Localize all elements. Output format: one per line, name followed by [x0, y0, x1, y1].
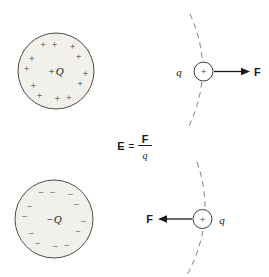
- force-label: F: [146, 213, 153, 225]
- test-charge-label: q: [176, 66, 182, 78]
- equation-F: F: [142, 133, 149, 145]
- equation-E: E: [117, 140, 124, 152]
- minus-mark: −: [22, 211, 28, 222]
- minus-mark: −: [74, 199, 80, 210]
- charge-letter: Q: [56, 65, 64, 77]
- force-arrowhead-icon: [241, 68, 250, 75]
- minus-mark: −: [81, 216, 87, 227]
- plus-mark: +: [24, 63, 30, 74]
- plus-mark: +: [37, 90, 43, 101]
- negative-charged-sphere: −−−−−−−−−−−− −Q: [15, 180, 93, 258]
- minus-sign: −: [46, 213, 52, 225]
- minus-mark: −: [50, 187, 56, 198]
- plus-mark: +: [40, 39, 46, 50]
- force-arrowhead-icon: [158, 215, 167, 222]
- bottom-test-charge-diagram: + q F: [146, 162, 225, 275]
- equation-q: q: [143, 150, 148, 161]
- plus-mark: +: [55, 93, 61, 104]
- plus-mark: +: [77, 78, 83, 89]
- test-charge-plus: +: [201, 66, 207, 77]
- minus-mark: −: [29, 228, 35, 239]
- minus-mark: −: [35, 238, 41, 249]
- negative-sphere-charge-label: −Q: [46, 213, 61, 225]
- top-test-charge-diagram: + q F: [176, 14, 261, 128]
- electric-field-figure: ++++++++++++ +Q + q F E = F q −−−−−−−−−−…: [0, 0, 269, 277]
- plus-mark: +: [83, 68, 89, 79]
- minus-mark: −: [38, 187, 44, 198]
- plus-sign: +: [48, 65, 54, 77]
- electric-field-diagram: ++++++++++++ +Q + q F E = F q −−−−−−−−−−…: [0, 0, 269, 277]
- minus-mark: −: [64, 240, 70, 251]
- charge-letter: Q: [54, 213, 62, 225]
- test-charge-label: q: [219, 214, 225, 226]
- field-equation: E = F q: [117, 133, 152, 162]
- positive-charged-sphere: ++++++++++++ +Q: [18, 33, 94, 109]
- plus-mark: +: [52, 39, 58, 50]
- plus-mark: +: [66, 92, 72, 103]
- minus-mark: −: [68, 189, 74, 200]
- test-charge-plus: +: [200, 214, 206, 225]
- force-label: F: [254, 66, 261, 78]
- minus-mark: −: [75, 226, 81, 237]
- plus-mark: +: [76, 51, 82, 62]
- plus-mark: +: [31, 80, 37, 91]
- equation-equals: =: [129, 141, 135, 152]
- minus-mark: −: [27, 201, 33, 212]
- plus-mark: +: [70, 41, 76, 52]
- plus-mark: +: [29, 53, 35, 64]
- minus-mark: −: [53, 241, 59, 252]
- positive-sphere-charge-label: +Q: [48, 65, 63, 77]
